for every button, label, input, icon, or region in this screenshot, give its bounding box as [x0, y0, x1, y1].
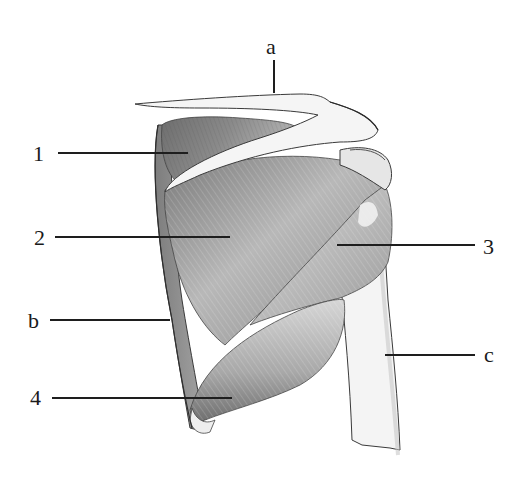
leader-line-4: [52, 397, 232, 399]
leader-line-c: [385, 354, 475, 356]
label-2: 2: [34, 227, 45, 249]
leader-line-3: [337, 244, 475, 246]
label-1: 1: [33, 143, 44, 165]
label-4: 4: [30, 387, 41, 409]
leader-line-a: [273, 60, 275, 93]
label-b: b: [28, 310, 39, 332]
leader-line-b: [50, 319, 170, 321]
leader-line-1: [58, 152, 188, 154]
label-3: 3: [483, 236, 494, 258]
label-c: c: [484, 344, 494, 366]
shoulder-anatomy-figure: a 1 2 3 b c 4: [0, 0, 530, 500]
leader-line-2: [55, 236, 230, 238]
anatomy-drawing: [0, 0, 530, 500]
label-a: a: [266, 36, 276, 58]
